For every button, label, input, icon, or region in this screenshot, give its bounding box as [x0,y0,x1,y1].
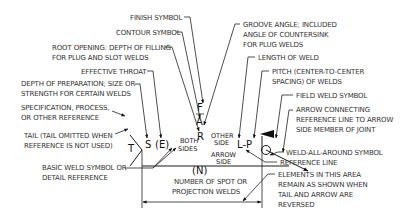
label-finish-symbol: FINISH SYMBOL [130,14,182,22]
label-groove-1: GROOVE ANGLE; INCLUDED [243,21,337,29]
label-spot-1: NUMBER OF SPOT OR [174,178,247,186]
other-side-bottom: SIDE [214,139,229,147]
label-effective-throat: EFFECTIVE THROAT [81,68,147,76]
label-root-opening-1: ROOT OPENING: DEPTH OF FILLING [52,44,171,52]
label-elements-1: ELEMENTS IN THIS AREA [278,171,361,179]
label-field-weld: FIELD WELD SYMBOL [296,92,367,100]
label-spec-1: SPECIFICATION, PROCESS, [21,104,109,112]
symbol-t: T [127,143,135,154]
label-reference-line: REFERENCE LINE [280,159,337,167]
arrow-side-bottom: SIDE [216,158,231,166]
label-arrow-conn-2: REFERENCE LINE TO ARROW [296,116,393,124]
label-groove-2: ANGLE OF COUNTERSINK [243,31,329,39]
label-pitch-1: PITCH (CENTER-TO-CENTER [272,68,364,76]
welding-symbol-diagram: F A R S (E) T L-P (N) BOTH SIDES OTHER S… [0,0,409,221]
label-length: LENGTH OF WELD [258,54,319,62]
label-contour-symbol: CONTOUR SYMBOL [116,29,181,37]
label-depth-prep-2: STRENGTH FOR CERTAIN WELDS [21,90,131,98]
label-pitch-2: SPACING) OF WELDS [272,78,342,86]
label-elements-2: REMAIN AS SHOWN WHEN [278,181,368,189]
symbol-s: S [145,139,151,150]
symbol-e: (E) [155,139,169,150]
label-spec-2: OR OTHER REFERENCE [21,114,99,122]
label-depth-prep-1: DEPTH OF PREPARATION; SIZE OR [21,80,135,88]
label-elements-3: TAIL AND ARROW ARE [277,191,353,199]
label-tail-1: TAIL (TAIL OMITTED WHEN [23,132,113,140]
label-elements-4: REVERSED [278,201,314,209]
label-basic-1: BASIC WELD SYMBOL OR [42,164,127,172]
symbol-lp: L-P [237,139,252,150]
label-arrow-conn-1: ARROW CONNECTING [296,106,370,114]
both-sides-bottom: SIDES [178,145,197,153]
both-sides-top: BOTH [180,137,198,145]
label-weld-all-around: WELD-ALL-AROUND SYMBOL [286,149,383,157]
symbol-n: (N) [192,165,207,176]
label-spot-2: PROJECTION WELDS [172,188,241,196]
label-root-opening-2: FOR PLUG AND SLOT WELDS [52,54,149,62]
label-arrow-conn-3: SIDE MEMBER OF JOINT [296,126,376,134]
label-groove-3: FOR PLUG WELDS [243,41,304,49]
label-basic-2: DETAIL REFERENCE [42,174,108,182]
label-tail-2: REFERENCE IS NOT USED) [24,142,113,150]
